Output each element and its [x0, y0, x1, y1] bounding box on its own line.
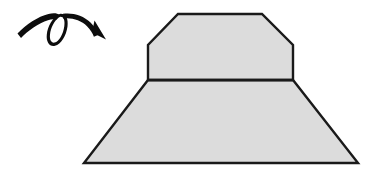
upper-chamfered-trapezoid-shape [148, 14, 293, 80]
figure-canvas: Rotation of a solid figure [0, 0, 373, 174]
geometry-illustration [0, 0, 373, 174]
